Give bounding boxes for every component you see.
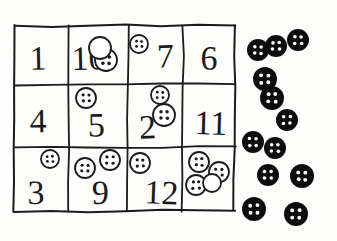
white-button-cell-2-upper [151, 86, 169, 104]
loose-black-button-7 [242, 131, 264, 153]
white-button-cell-5 [76, 88, 96, 108]
white-button-cell-9-right [100, 150, 120, 170]
cell-number: 12 [144, 173, 179, 211]
loose-black-button-10 [290, 164, 314, 188]
cell-number: 11 [194, 104, 228, 142]
loose-black-button-8 [264, 137, 286, 159]
loose-black-button-6 [276, 109, 298, 131]
loose-black-button-9 [257, 164, 279, 186]
white-button-cell-7 [130, 35, 148, 53]
white-button-cell-9-left [75, 158, 95, 178]
cell-number: 9 [92, 174, 109, 211]
loose-black-button-11 [242, 197, 266, 221]
loose-black-buttons-group [242, 29, 314, 226]
white-button-cell-2-lower [153, 104, 175, 126]
worksheet-drawing: 11076452113912 [0, 0, 337, 241]
cell-number: 3 [27, 174, 44, 211]
cell-number: 5 [88, 106, 105, 143]
loose-black-button-2 [265, 35, 287, 57]
loose-black-button-12 [284, 202, 308, 226]
white-button-cluster-d [203, 174, 221, 192]
cell-number: 6 [200, 39, 217, 76]
cell-number: 1 [29, 39, 47, 76]
white-button-cluster-a [189, 152, 209, 172]
loose-black-button-3 [287, 29, 309, 51]
white-button-cell-12 [130, 153, 150, 173]
cell-number: 4 [29, 102, 47, 139]
worksheet-canvas: Number grid with buttons 11076452113912 [0, 0, 337, 241]
cell-number: 7 [156, 37, 174, 74]
white-button-plain-cell-10 [89, 37, 111, 59]
white-button-cell-3 [41, 150, 59, 168]
loose-black-button-5 [260, 86, 284, 110]
